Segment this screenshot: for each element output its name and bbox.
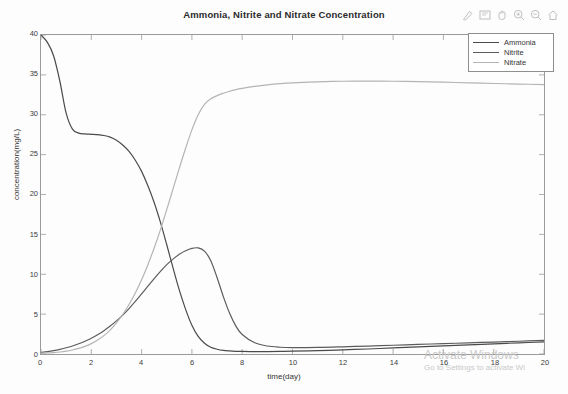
legend-swatch-nitrite (473, 52, 499, 53)
x-tick-label: 18 (483, 358, 507, 367)
chart-title: Ammonia, Nitrite and Nitrate Concentrati… (0, 9, 568, 20)
y-tick-label: 5 (12, 311, 38, 319)
legend-label-nitrate: Nitrate (504, 58, 526, 67)
series-lines (41, 35, 544, 353)
series-line-nitrate (41, 81, 544, 353)
legend-item-nitrite: Nitrite (473, 48, 549, 57)
y-tick-label: 40 (12, 30, 38, 38)
y-axis-label: concentration(mg/L) (12, 100, 21, 230)
x-tick-label: 10 (281, 358, 305, 367)
x-tick-label: 2 (79, 358, 103, 367)
series-line-nitrite (41, 248, 544, 353)
legend-swatch-ammonia (473, 42, 499, 43)
y-tick-label: 10 (12, 271, 38, 279)
x-tick-label: 12 (331, 358, 355, 367)
matlab-figure-window: Ammonia, Nitrite and Nitrate Concentrati… (0, 0, 568, 394)
x-tick-label: 0 (28, 358, 52, 367)
x-tick-label: 4 (129, 358, 153, 367)
x-tick-label: 6 (180, 358, 204, 367)
legend-item-ammonia: Ammonia (473, 38, 549, 47)
plot-area (40, 34, 545, 355)
legend-label-ammonia: Ammonia (504, 38, 536, 47)
x-axis-label: time(day) (0, 372, 568, 381)
legend-label-nitrite: Nitrite (504, 48, 524, 57)
x-tick-label: 16 (432, 358, 456, 367)
y-tick-label: 15 (12, 231, 38, 239)
x-tick-label: 20 (533, 358, 557, 367)
chart-legend: Ammonia Nitrite Nitrate (468, 33, 554, 72)
legend-swatch-nitrate (473, 62, 499, 63)
y-tick-label: 35 (12, 70, 38, 78)
plot-canvas (41, 35, 544, 354)
x-tick-label: 8 (230, 358, 254, 367)
x-tick-label: 14 (382, 358, 406, 367)
legend-item-nitrate: Nitrate (473, 58, 549, 67)
